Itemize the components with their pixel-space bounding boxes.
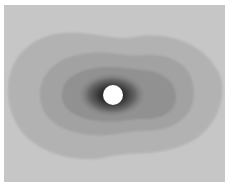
contour-figure: [4, 5, 225, 182]
contour-plot: [4, 5, 225, 182]
white-disk: [103, 85, 123, 105]
figure-caption: [0, 184, 230, 191]
